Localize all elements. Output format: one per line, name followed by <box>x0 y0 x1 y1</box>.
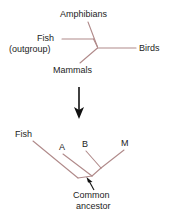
label-mammals: Mammals <box>53 65 92 75</box>
branch-a <box>63 154 92 176</box>
label-fish: Fish <box>15 129 32 139</box>
label-fish-outgroup-line1: Fish <box>37 33 54 43</box>
diagram-lines <box>0 0 170 215</box>
transition-arrow <box>74 87 84 119</box>
label-fish-outgroup-line2: (outgroup) <box>9 44 51 54</box>
figure-container: Amphibians Fish (outgroup) Birds Mammals… <box>0 0 170 215</box>
branch-b <box>86 151 101 168</box>
label-common-ancestor-line2: ancestor <box>76 201 111 211</box>
label-m: M <box>121 138 129 148</box>
top-tree-branches <box>62 22 136 63</box>
branch-fish <box>33 141 78 178</box>
branch-root-stem <box>78 176 92 178</box>
label-birds: Birds <box>139 43 160 53</box>
ancestor-pointer-head <box>87 177 93 183</box>
bottom-tree-branches <box>33 141 124 178</box>
branch-internal-bm <box>92 168 101 176</box>
ancestor-pointer <box>87 177 95 190</box>
branch-m <box>101 150 124 168</box>
label-amphibians: Amphibians <box>60 9 107 19</box>
label-a: A <box>59 142 65 152</box>
label-common-ancestor-line1: Common <box>73 190 110 200</box>
label-b: B <box>82 139 88 149</box>
branch-mammals <box>80 48 98 63</box>
